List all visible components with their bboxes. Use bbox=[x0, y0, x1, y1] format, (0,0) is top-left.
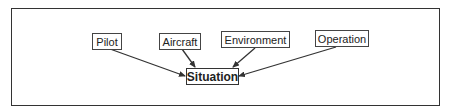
edge-aircraft-situation bbox=[182, 49, 195, 67]
node-aircraft: Aircraft bbox=[159, 33, 201, 50]
node-situation-label: Situation bbox=[187, 70, 238, 84]
edge-pilot-situation bbox=[110, 49, 185, 76]
node-operation-label: Operation bbox=[318, 33, 366, 45]
edges bbox=[0, 0, 454, 111]
node-pilot-label: Pilot bbox=[96, 36, 117, 48]
node-environment-label: Environment bbox=[225, 34, 287, 46]
node-aircraft-label: Aircraft bbox=[163, 36, 198, 48]
edge-operation-situation bbox=[239, 47, 336, 76]
node-pilot: Pilot bbox=[92, 33, 122, 50]
node-environment: Environment bbox=[221, 31, 290, 48]
node-situation: Situation bbox=[186, 68, 239, 85]
node-operation: Operation bbox=[315, 30, 369, 47]
edge-environment-situation bbox=[233, 48, 255, 67]
